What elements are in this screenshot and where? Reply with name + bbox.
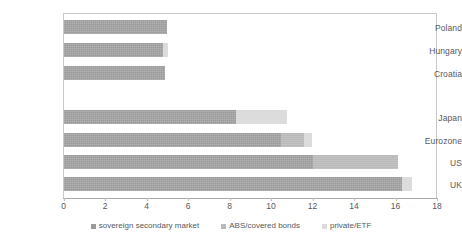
x-tick-label: 18 xyxy=(425,202,449,211)
bar-segment xyxy=(281,133,304,147)
category-label-poland: Poland xyxy=(404,24,462,33)
x-tick-label: 10 xyxy=(259,202,283,211)
legend-label: ABS/covered bonds xyxy=(229,222,300,230)
x-tick-label: 0 xyxy=(52,202,76,211)
bar-row xyxy=(64,133,313,147)
legend-swatch-icon xyxy=(221,224,226,229)
bar-row xyxy=(64,177,413,191)
category-label-uk: UK xyxy=(404,181,462,190)
bar-segment xyxy=(64,177,402,191)
legend-label: sovereign secondary market xyxy=(99,222,200,230)
bar-segment xyxy=(64,110,236,124)
legend-swatch-icon xyxy=(322,224,327,229)
bar-segment xyxy=(64,20,168,34)
x-axis-line xyxy=(63,198,438,199)
plot-area xyxy=(63,13,437,199)
x-tick-label: 14 xyxy=(342,202,366,211)
bar-segment xyxy=(236,110,287,124)
bar-segment xyxy=(64,66,166,80)
bar-row xyxy=(64,155,398,169)
category-label-japan: Japan xyxy=(404,114,462,123)
category-label-hungary: Hungary xyxy=(404,47,462,56)
bar-segment xyxy=(64,155,313,169)
stacked-bar-chart: PolandHungaryCroatiaJapanEurozoneUSUK 02… xyxy=(0,0,462,242)
bar-segment xyxy=(64,43,164,57)
category-label-us: US xyxy=(404,159,462,168)
category-label-eurozone: Eurozone xyxy=(404,137,462,146)
legend-swatch-icon xyxy=(91,224,96,229)
bar-segment xyxy=(313,155,398,169)
x-tick-label: 8 xyxy=(218,202,242,211)
bar-row xyxy=(64,66,166,80)
bar-row xyxy=(64,20,168,34)
legend-label: private/ETF xyxy=(330,222,371,230)
bar-segment xyxy=(402,177,412,191)
legend-item[interactable]: private/ETF xyxy=(322,222,371,230)
chart-legend: sovereign secondary marketABS/covered bo… xyxy=(0,222,462,230)
bar-segment xyxy=(304,133,312,147)
x-tick-label: 16 xyxy=(384,202,408,211)
bar-segment xyxy=(64,133,282,147)
x-tick-label: 12 xyxy=(301,202,325,211)
legend-item[interactable]: sovereign secondary market xyxy=(91,222,200,230)
bar-row xyxy=(64,110,287,124)
legend-item[interactable]: ABS/covered bonds xyxy=(221,222,300,230)
x-tick-label: 6 xyxy=(176,202,200,211)
bar-row xyxy=(64,43,169,57)
bar-segment xyxy=(163,43,168,57)
x-tick-label: 2 xyxy=(93,202,117,211)
category-label-croatia: Croatia xyxy=(404,70,462,79)
x-tick-label: 4 xyxy=(135,202,159,211)
